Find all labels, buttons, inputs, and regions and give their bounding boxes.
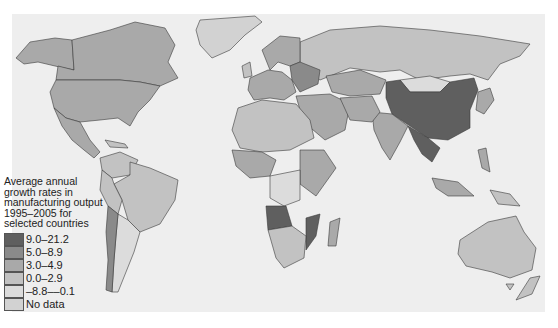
legend-label: 5.0–8.9 xyxy=(26,247,63,258)
legend-label: –8.8––0.1 xyxy=(26,286,75,297)
region-uk xyxy=(242,62,252,78)
region-central-africa xyxy=(270,170,300,206)
region-caribbean xyxy=(105,140,128,148)
legend-swatch xyxy=(4,259,24,272)
legend-swatch xyxy=(4,246,24,259)
region-greenland xyxy=(196,16,262,58)
region-papua xyxy=(490,190,520,206)
region-western-europe xyxy=(248,70,296,100)
legend-label: 9.0–21.2 xyxy=(26,234,69,245)
legend-item: 3.0–4.9 xyxy=(4,259,124,272)
region-mozambique xyxy=(306,214,320,250)
legend-item: 9.0–21.2 xyxy=(4,233,124,246)
region-indonesia xyxy=(432,178,474,196)
legend-item: No data xyxy=(4,298,124,311)
legend-label: No data xyxy=(26,299,65,310)
legend-item: 0.0–2.9 xyxy=(4,272,124,285)
region-canada xyxy=(56,22,178,86)
region-japan xyxy=(476,88,494,114)
region-russia xyxy=(300,26,530,80)
region-australia xyxy=(458,216,536,278)
legend-label: 0.0–2.9 xyxy=(26,273,63,284)
region-philippines xyxy=(478,148,490,172)
legend-title-line: selected countries xyxy=(4,218,124,229)
region-alaska xyxy=(16,38,74,70)
legend-title: Average annual growth rates in manufactu… xyxy=(4,176,124,229)
map-legend: Average annual growth rates in manufactu… xyxy=(4,176,124,311)
legend-swatch xyxy=(4,272,24,285)
legend-label: 3.0–4.9 xyxy=(26,260,63,271)
region-west-africa xyxy=(232,150,276,178)
region-madagascar xyxy=(328,218,340,246)
region-east-africa xyxy=(300,150,336,196)
legend-item: 5.0–8.9 xyxy=(4,246,124,259)
region-new-zealand xyxy=(516,276,540,300)
legend-swatch xyxy=(4,298,24,311)
region-southern-africa xyxy=(268,226,306,268)
legend-item: –8.8––0.1 xyxy=(4,285,124,298)
legend-title-line: manufacturing output xyxy=(4,197,124,208)
legend-title-line: Average annual xyxy=(4,176,124,187)
legend-swatch xyxy=(4,233,24,246)
region-tasmania xyxy=(506,284,514,290)
legend-swatch xyxy=(4,285,24,298)
